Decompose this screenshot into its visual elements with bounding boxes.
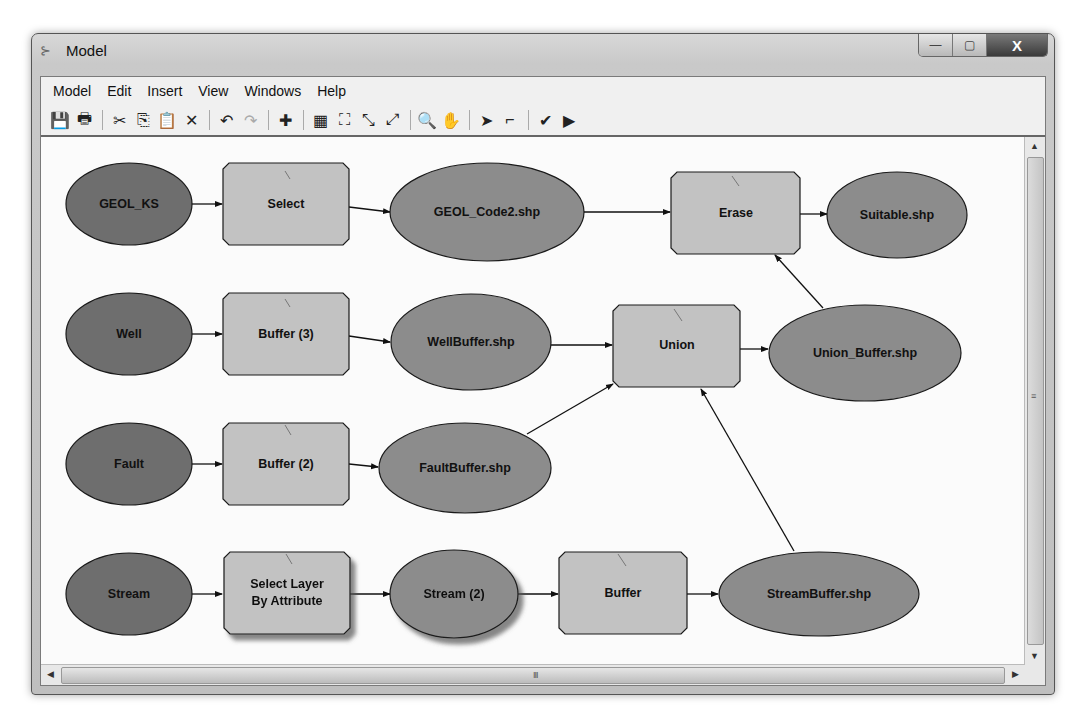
svg-text:Select Layer: Select Layer (250, 577, 324, 591)
menu-edit[interactable]: Edit (107, 83, 131, 99)
svg-text:FaultBuffer.shp: FaultBuffer.shp (419, 461, 511, 475)
undo-icon[interactable]: ↶ (215, 109, 237, 131)
vertical-scroll-thumb[interactable]: ≡ (1027, 157, 1044, 645)
tool-buffer-2[interactable]: Buffer (2) (223, 423, 349, 505)
grip-icon: III (533, 670, 538, 680)
svg-text:Select: Select (268, 197, 306, 211)
paste-icon[interactable]: 📋 (156, 109, 178, 131)
add-connection-icon[interactable]: ⌐ (499, 109, 521, 131)
scroll-down-arrow-icon[interactable]: ▼ (1030, 651, 1039, 661)
validate-icon[interactable]: ✔ (534, 109, 556, 131)
add-data-icon[interactable]: ✚ (274, 109, 296, 131)
node-union-buffer[interactable]: Union_Buffer.shp (769, 305, 961, 401)
menu-model[interactable]: Model (53, 83, 91, 99)
svg-text:Union_Buffer.shp: Union_Buffer.shp (813, 346, 918, 360)
node-streambuffer[interactable]: StreamBuffer.shp (719, 552, 919, 636)
model-window: ⊱ Model — ▢ X Model Edit Insert View Win… (31, 33, 1055, 695)
horizontal-scrollbar[interactable]: ◀ III ▶ (41, 664, 1025, 685)
delete-icon[interactable]: ✕ (180, 109, 202, 131)
toolbar-separator (410, 110, 411, 130)
select-icon[interactable]: ➤ (475, 109, 497, 131)
scroll-up-arrow-icon[interactable]: ▲ (1030, 141, 1039, 151)
scroll-left-arrow-icon[interactable]: ◀ (47, 669, 54, 679)
node-faultbuffer[interactable]: FaultBuffer.shp (379, 423, 551, 513)
svg-text:By Attribute: By Attribute (251, 594, 322, 608)
horizontal-scroll-thumb[interactable]: III (61, 667, 1005, 684)
menu-windows[interactable]: Windows (244, 83, 301, 99)
tool-union[interactable]: Union (613, 305, 740, 387)
node-geol-code2[interactable]: GEOL_Code2.shp (390, 163, 584, 261)
run-icon[interactable]: ▶ (558, 109, 580, 131)
zoom-in-icon[interactable]: 🔍 (416, 109, 438, 131)
svg-text:WellBuffer.shp: WellBuffer.shp (427, 335, 515, 349)
toolbar-separator (209, 110, 210, 130)
scrollbar-corner (1025, 665, 1045, 685)
zoom-out-fixed-icon[interactable]: ⤢ (381, 109, 403, 131)
close-button[interactable]: X (987, 34, 1047, 56)
tool-select[interactable]: Select (223, 163, 349, 245)
modelbuilder-app-icon: ⊱ (40, 43, 58, 59)
maximize-button[interactable]: ▢ (953, 34, 987, 56)
model-diagram: GEOL_KS Select GEOL_Code2.shp Erase (41, 137, 1021, 665)
grip-icon: ≡ (1031, 391, 1035, 401)
svg-text:GEOL_KS: GEOL_KS (99, 197, 159, 211)
node-suitable[interactable]: Suitable.shp (827, 172, 967, 258)
svg-text:Suitable.shp: Suitable.shp (860, 208, 935, 222)
redo-icon[interactable]: ↷ (239, 109, 261, 131)
save-icon[interactable]: 💾 (49, 109, 71, 131)
zoom-in-fixed-icon[interactable]: ⤡ (357, 109, 379, 131)
menu-view[interactable]: View (198, 83, 228, 99)
svg-text:Buffer (2): Buffer (2) (258, 457, 314, 471)
full-extent-icon[interactable]: ⛶ (333, 109, 355, 131)
tool-buffer[interactable]: Buffer (559, 552, 687, 634)
svg-text:Fault: Fault (114, 457, 145, 471)
vertical-scrollbar[interactable]: ▲ ≡ ▼ (1024, 137, 1045, 665)
cut-icon[interactable]: ✂ (108, 109, 130, 131)
tool-select-layer-by-attribute[interactable]: Select Layer By Attribute (224, 552, 350, 634)
toolbar-separator (268, 110, 269, 130)
minimize-button[interactable]: — (919, 34, 953, 56)
tool-buffer-3[interactable]: Buffer (3) (223, 293, 349, 375)
toolbar-separator (528, 110, 529, 130)
node-stream-2[interactable]: Stream (2) (390, 550, 518, 638)
node-stream[interactable]: Stream (66, 553, 192, 635)
svg-text:Stream (2): Stream (2) (423, 587, 484, 601)
pan-icon[interactable]: ✋ (440, 109, 462, 131)
title-bar[interactable]: ⊱ Model — ▢ X (32, 34, 1054, 74)
toolbar-separator (469, 110, 470, 130)
toolbar-separator (303, 110, 304, 130)
menu-bar: Model Edit Insert View Windows Help (41, 77, 1045, 105)
toolbar-separator (102, 110, 103, 130)
menu-help[interactable]: Help (317, 83, 346, 99)
window-controls: — ▢ X (918, 34, 1048, 57)
menu-insert[interactable]: Insert (147, 83, 182, 99)
print-icon[interactable]: 🖶 (73, 109, 95, 131)
node-geol-ks[interactable]: GEOL_KS (66, 163, 192, 245)
svg-text:Erase: Erase (719, 206, 753, 220)
svg-text:StreamBuffer.shp: StreamBuffer.shp (767, 587, 872, 601)
tool-erase[interactable]: Erase (671, 172, 800, 254)
node-wellbuffer[interactable]: WellBuffer.shp (391, 294, 551, 390)
scroll-right-arrow-icon[interactable]: ▶ (1012, 669, 1019, 679)
svg-text:GEOL_Code2.shp: GEOL_Code2.shp (434, 205, 541, 219)
connectors (191, 204, 827, 594)
svg-text:Union: Union (659, 338, 694, 352)
copy-icon[interactable]: ⎘ (132, 109, 154, 131)
svg-text:Well: Well (116, 327, 141, 341)
node-fault[interactable]: Fault (66, 423, 192, 505)
client-area: Model Edit Insert View Windows Help 💾 🖶 … (40, 76, 1046, 686)
model-canvas[interactable]: GEOL_KS Select GEOL_Code2.shp Erase (41, 137, 1025, 665)
svg-text:Buffer (3): Buffer (3) (258, 327, 314, 341)
svg-text:Buffer: Buffer (605, 586, 642, 600)
node-well[interactable]: Well (66, 293, 192, 375)
window-title: Model (66, 42, 107, 59)
svg-text:Stream: Stream (108, 587, 150, 601)
auto-layout-icon[interactable]: ▦ (309, 109, 331, 131)
toolbar: 💾 🖶 ✂ ⎘ 📋 ✕ ↶ ↷ ✚ ▦ ⛶ ⤡ ⤢ 🔍 ✋ ➤ ⌐ ✔ ▶ (41, 105, 1045, 137)
